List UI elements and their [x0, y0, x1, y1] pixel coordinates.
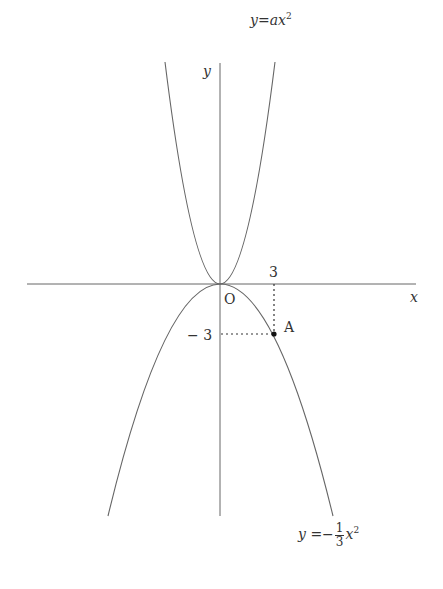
eq-lhs: y — [298, 526, 306, 542]
frac-denominator: 3 — [335, 536, 345, 549]
origin-label: O — [224, 292, 235, 306]
eq-minus: − — [322, 526, 334, 542]
eq-lhs: y — [250, 12, 258, 28]
lower-parabola-equation: y =−13x2 — [298, 522, 359, 548]
eq-exp: 2 — [353, 525, 359, 535]
y-axis-label: y — [203, 64, 211, 78]
eq-exp: 2 — [286, 11, 292, 21]
y-tick-label-neg3: − 3 — [187, 328, 212, 342]
frac-numerator: 1 — [335, 522, 345, 536]
eq-coef: a — [270, 12, 278, 28]
coordinate-plane — [0, 0, 443, 589]
eq-sign: = — [310, 526, 322, 542]
point-a-label: A — [284, 320, 294, 334]
x-axis-label: x — [410, 290, 418, 304]
point-a-marker — [271, 331, 276, 336]
fraction: 13 — [335, 522, 345, 548]
eq-sign: = — [258, 12, 270, 28]
upper-parabola-equation: y=ax2 — [250, 12, 292, 27]
x-tick-label-3: 3 — [269, 265, 278, 279]
eq-var: x — [278, 12, 286, 28]
